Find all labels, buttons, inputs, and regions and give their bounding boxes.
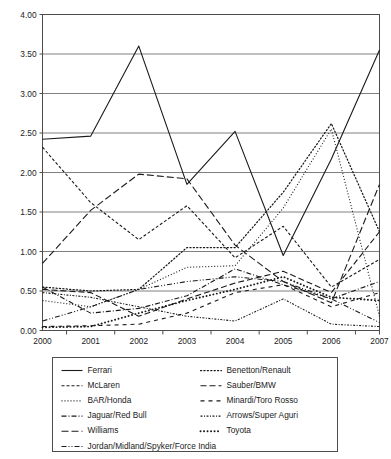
x-tick-label: 2004 [226,336,245,346]
y-tick-label: 1.50 [20,207,37,217]
y-tick-label: 2.00 [20,168,37,178]
y-tick-label: 2.50 [20,128,37,138]
x-tick-label: 2001 [81,336,100,346]
x-tick-label: 2006 [322,336,341,346]
x-tick-label: 2007 [370,336,389,346]
legend-label: Minardi/Toro Rosso [227,395,299,405]
x-tick-label: 2002 [130,336,149,346]
legend-label: Jordan/Midland/Spyker/Force India [88,441,217,451]
y-tick-label: 0.50 [20,286,37,296]
legend: FerrariMcLarenBAR/HondaJaguar/Red BullWi… [53,358,338,452]
legend-label: McLaren [88,380,121,390]
x-tick-label: 2005 [274,336,293,346]
y-tick-label: 0.00 [20,326,37,336]
x-tick-label: 2003 [178,336,197,346]
legend-label: Sauber/BMW [227,380,277,390]
legend-label: Jaguar/Red Bull [88,410,147,420]
line-chart: 0.000.501.001.502.002.503.003.504.00 200… [0,0,391,459]
y-tick-label: 1.00 [20,247,37,257]
legend-label: BAR/Honda [88,395,132,405]
y-tick-label: 4.00 [20,10,37,20]
x-tick-label: 2000 [33,336,52,346]
legend-label: Ferrari [88,365,113,375]
y-tick-label: 3.00 [20,89,37,99]
y-axis-tick-labels: 0.000.501.001.502.002.503.003.504.00 [20,10,37,336]
y-tick-label: 3.50 [20,49,37,59]
legend-label: Williams [88,425,119,435]
chart-page: 0.000.501.001.502.002.503.003.504.00 200… [0,0,391,459]
legend-label: Arrows/Super Aguri [227,410,299,420]
legend-label: Toyota [227,425,252,435]
legend-label: Benetton/Renault [227,365,292,375]
